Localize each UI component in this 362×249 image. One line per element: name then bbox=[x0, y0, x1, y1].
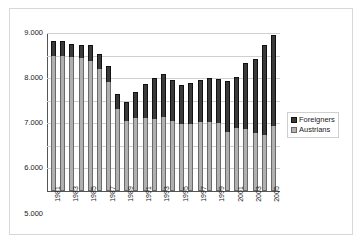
legend-item[interactable]: Austrians bbox=[291, 125, 335, 135]
bar-segment-austrians bbox=[106, 82, 111, 191]
x-axis-tick-slot bbox=[223, 193, 232, 233]
stacked-bar[interactable] bbox=[115, 94, 120, 191]
stacked-bar[interactable] bbox=[243, 63, 248, 191]
x-axis-tick-slot: 1989 bbox=[122, 193, 131, 233]
bar-segment-austrians bbox=[161, 117, 166, 191]
x-axis-tick-slot: 2003 bbox=[250, 193, 259, 233]
stacked-bar[interactable] bbox=[188, 83, 193, 191]
x-axis-tick-slot bbox=[205, 193, 214, 233]
stacked-bar[interactable] bbox=[225, 81, 230, 191]
y-axis-tick-label: 8.000 bbox=[24, 74, 43, 82]
y-axis-tick-label: 9.000 bbox=[24, 29, 43, 37]
bar-segment-foreigners bbox=[207, 78, 212, 122]
stacked-bar[interactable] bbox=[161, 74, 166, 191]
x-axis-tick-slot bbox=[186, 193, 195, 233]
bar-column bbox=[131, 33, 140, 191]
x-axis-tick-slot: 1999 bbox=[214, 193, 223, 233]
bar-segment-foreigners bbox=[97, 54, 102, 69]
bar-segment-austrians bbox=[234, 128, 239, 191]
bar-column bbox=[104, 33, 113, 191]
stacked-bar[interactable] bbox=[106, 66, 111, 191]
stacked-bar[interactable] bbox=[143, 84, 148, 191]
x-axis-tick-labels: 1981198319851987198919911993199519971999… bbox=[47, 193, 280, 233]
bar-segment-austrians bbox=[253, 133, 258, 191]
bar-column bbox=[214, 33, 223, 191]
stacked-bar[interactable] bbox=[79, 45, 84, 191]
bar-segment-austrians bbox=[133, 118, 138, 191]
x-axis-tick-slot bbox=[241, 193, 250, 233]
bar-column bbox=[241, 33, 250, 191]
stacked-bar[interactable] bbox=[216, 79, 221, 191]
bar-segment-foreigners bbox=[243, 63, 248, 129]
bar-segment-austrians bbox=[207, 122, 212, 191]
stacked-bar[interactable] bbox=[253, 59, 258, 191]
bar-segment-foreigners bbox=[216, 79, 221, 124]
x-axis-tick-slot bbox=[131, 193, 140, 233]
legend-swatch-icon bbox=[291, 117, 297, 123]
stacked-bar[interactable] bbox=[262, 45, 267, 191]
bar-segment-austrians bbox=[262, 135, 267, 191]
bar-segment-foreigners bbox=[88, 45, 93, 61]
stacked-bar[interactable] bbox=[69, 44, 74, 191]
x-axis-tick-slot bbox=[113, 193, 122, 233]
bar-segment-austrians bbox=[216, 123, 221, 191]
stacked-bar[interactable] bbox=[271, 35, 276, 191]
stacked-bar[interactable] bbox=[152, 78, 157, 191]
bar-segment-foreigners bbox=[170, 80, 175, 121]
bar-segment-foreigners bbox=[198, 80, 203, 122]
x-axis-tick-slot bbox=[95, 193, 104, 233]
bar-column bbox=[223, 33, 232, 191]
bar-segment-foreigners bbox=[225, 81, 230, 132]
stacked-bar[interactable] bbox=[170, 80, 175, 191]
stacked-bar[interactable] bbox=[179, 85, 184, 191]
x-axis-tick-slot: 1985 bbox=[86, 193, 95, 233]
bar-segment-austrians bbox=[170, 121, 175, 191]
stacked-bar[interactable] bbox=[234, 77, 239, 191]
bar-column bbox=[159, 33, 168, 191]
stacked-bar[interactable] bbox=[60, 41, 65, 191]
x-axis-tick-slot: 2005 bbox=[269, 193, 278, 233]
bar-segment-austrians bbox=[88, 61, 93, 191]
x-axis-tick-slot: 1997 bbox=[196, 193, 205, 233]
x-axis-tick-slot: 1987 bbox=[104, 193, 113, 233]
bar-segment-foreigners bbox=[271, 35, 276, 125]
bar-segment-foreigners bbox=[124, 102, 129, 121]
x-axis-tick-slot bbox=[150, 193, 159, 233]
x-axis-tick-slot: 1991 bbox=[141, 193, 150, 233]
legend-label: Foreigners bbox=[299, 115, 335, 125]
bar-column bbox=[141, 33, 150, 191]
bar-segment-austrians bbox=[124, 121, 129, 191]
stacked-bar[interactable] bbox=[124, 102, 129, 191]
stacked-bar[interactable] bbox=[97, 54, 102, 191]
x-axis-tick-slot bbox=[168, 193, 177, 233]
bar-segment-foreigners bbox=[234, 77, 239, 128]
bar-column bbox=[269, 33, 278, 191]
bar-segment-austrians bbox=[271, 126, 276, 191]
bar-column bbox=[122, 33, 131, 191]
stacked-bar[interactable] bbox=[207, 78, 212, 191]
stacked-bar[interactable] bbox=[133, 92, 138, 191]
stacked-bar[interactable] bbox=[51, 41, 56, 191]
bar-segment-foreigners bbox=[143, 84, 148, 118]
bar-column bbox=[67, 33, 76, 191]
bar-segment-austrians bbox=[143, 118, 148, 191]
y-axis-tick-label: 7.000 bbox=[24, 120, 43, 128]
stacked-bar[interactable] bbox=[88, 45, 93, 191]
bar-column bbox=[150, 33, 159, 191]
bar-segment-austrians bbox=[51, 56, 56, 191]
bar-column bbox=[76, 33, 85, 191]
x-axis-tick-slot: 1995 bbox=[177, 193, 186, 233]
bar-segment-foreigners bbox=[79, 45, 84, 58]
bar-segment-austrians bbox=[243, 129, 248, 191]
x-axis-tick-slot bbox=[76, 193, 85, 233]
legend-item[interactable]: Foreigners bbox=[291, 115, 335, 125]
bar-column bbox=[49, 33, 58, 191]
chart-legend: ForeignersAustrians bbox=[287, 112, 339, 138]
x-axis-tick-slot: 1993 bbox=[159, 193, 168, 233]
bar-series-group bbox=[47, 33, 280, 191]
chart-area: 9.0008.0007.0006.0005.0004.0003.0002.000… bbox=[10, 9, 354, 236]
x-axis-tick-slot: 2001 bbox=[232, 193, 241, 233]
stacked-bar[interactable] bbox=[198, 80, 203, 191]
bar-segment-austrians bbox=[97, 69, 102, 191]
bar-segment-foreigners bbox=[179, 85, 184, 125]
